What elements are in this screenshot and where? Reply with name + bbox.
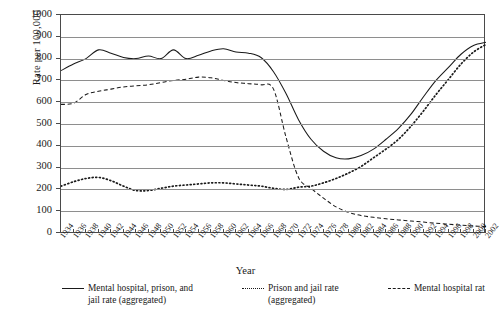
series-line-1 bbox=[61, 42, 486, 159]
gridline bbox=[61, 37, 484, 38]
legend-label: Mental hospital rat bbox=[414, 283, 485, 295]
x-axis-title: Year bbox=[0, 265, 491, 276]
gridline bbox=[61, 124, 484, 125]
y-tick-label: 100 bbox=[2, 205, 52, 216]
y-tick-label: 200 bbox=[2, 183, 52, 194]
y-tick-label: 300 bbox=[2, 161, 52, 172]
gridline bbox=[61, 59, 484, 60]
legend-label-line1: Mental hospital, prison, and bbox=[88, 283, 193, 295]
gridline bbox=[61, 80, 484, 81]
legend-item-2[interactable]: Prison and jail rate(aggregated) bbox=[242, 283, 339, 306]
y-tick-label: 800 bbox=[2, 52, 52, 63]
legend-swatch-solid-icon bbox=[62, 288, 84, 291]
legend-label-line1: Mental hospital rat bbox=[414, 283, 485, 295]
y-tick-label: 1000 bbox=[2, 9, 52, 20]
legend-label: Prison and jail rate(aggregated) bbox=[268, 283, 339, 306]
legend-label-line1: Prison and jail rate bbox=[268, 283, 339, 295]
legend-swatch-dotted-icon bbox=[242, 288, 264, 291]
y-tick-label: 500 bbox=[2, 118, 52, 129]
gridline bbox=[61, 189, 484, 190]
y-tick-label: 900 bbox=[2, 30, 52, 41]
y-axis-ticks: 01002003004005006007008009001000 bbox=[0, 0, 56, 232]
legend-item-3[interactable]: Mental hospital rat bbox=[388, 283, 485, 295]
legend-label-line2: (aggregated) bbox=[268, 295, 339, 307]
series-line-3 bbox=[61, 77, 486, 226]
legend-swatch-dashed-icon bbox=[388, 288, 410, 291]
legend-label-line2: jail rate (aggregated) bbox=[88, 295, 193, 307]
y-tick-label: 400 bbox=[2, 139, 52, 150]
legend-item-1[interactable]: Mental hospital, prison, andjail rate (a… bbox=[62, 283, 193, 306]
chart-legend: Mental hospital, prison, andjail rate (a… bbox=[0, 283, 491, 324]
y-tick-label: 700 bbox=[2, 74, 52, 85]
gridline bbox=[61, 102, 484, 103]
gridline bbox=[61, 211, 484, 212]
y-tick-label: 0 bbox=[2, 227, 52, 238]
series-line-2 bbox=[61, 44, 486, 190]
y-tick-label: 600 bbox=[2, 96, 52, 107]
gridline bbox=[61, 168, 484, 169]
legend-label: Mental hospital, prison, andjail rate (a… bbox=[88, 283, 193, 306]
plot-area bbox=[60, 14, 485, 232]
gridline bbox=[61, 146, 484, 147]
